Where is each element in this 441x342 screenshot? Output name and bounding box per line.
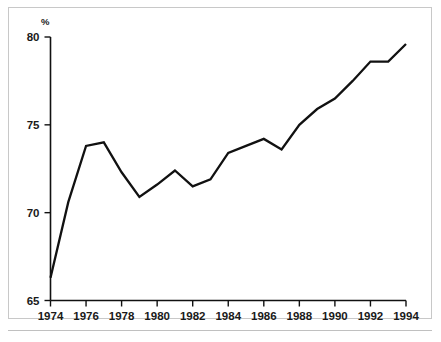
x-tick-label: 1986	[251, 310, 277, 322]
data-series-line	[51, 44, 407, 278]
y-axis-unit-label: %	[41, 16, 50, 27]
x-tick-label: 1988	[287, 310, 313, 322]
x-tick-label: 1982	[180, 310, 206, 322]
x-tick-label: 1992	[358, 310, 384, 322]
x-tick-label: 1980	[144, 310, 170, 322]
chart-page: % 65707580 19741976197819801982198419861…	[0, 0, 441, 342]
chart-svg: % 65707580 19741976197819801982198419861…	[0, 0, 441, 342]
x-tick-label: 1994	[393, 310, 419, 322]
y-tick-label: 65	[27, 295, 40, 307]
bottom-divider	[8, 330, 432, 331]
line-chart: % 65707580 19741976197819801982198419861…	[0, 0, 441, 342]
y-axis-ticks: 65707580	[27, 31, 51, 307]
y-tick-label: 75	[27, 119, 40, 131]
x-axis-ticks: 1974197619781980198219841986198819901992…	[38, 301, 420, 322]
y-tick-label: 70	[27, 207, 40, 219]
x-tick-label: 1990	[322, 310, 348, 322]
x-tick-label: 1976	[73, 310, 99, 322]
x-tick-label: 1978	[109, 310, 135, 322]
y-tick-label: 80	[27, 31, 40, 43]
x-tick-label: 1974	[38, 310, 64, 322]
x-tick-label: 1984	[215, 310, 241, 322]
